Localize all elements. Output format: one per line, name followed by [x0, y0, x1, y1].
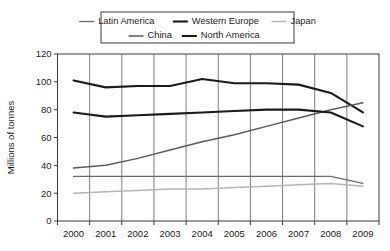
y-axis-tick-label: 40: [41, 160, 52, 171]
x-axis-tick-label: 2008: [320, 228, 341, 239]
y-axis-tick-label: 60: [41, 132, 52, 143]
x-axis-tick-label: 2002: [127, 228, 148, 239]
x-axis-tick-label: 2003: [159, 228, 180, 239]
chart-canvas: 020406080100120Millions of tonnes2000200…: [0, 0, 390, 251]
x-axis-tick-label: 2004: [192, 228, 213, 239]
y-axis-title: Millions of tonnes: [5, 101, 16, 175]
x-axis-tick-label: 2000: [63, 228, 84, 239]
y-axis-tick-label: 80: [41, 104, 52, 115]
line-chart: 020406080100120Millions of tonnes2000200…: [0, 0, 390, 251]
legend-label-north-america: North America: [201, 30, 261, 40]
x-axis-tick-label: 2009: [352, 228, 373, 239]
x-axis-tick-label: 2006: [256, 228, 277, 239]
legend-label-western-europe: Western Europe: [192, 16, 259, 26]
legend-label-japan: Japan: [291, 16, 316, 26]
x-axis-tick-label: 2001: [95, 228, 116, 239]
y-axis-tick-label: 120: [36, 48, 52, 59]
y-axis-tick-label: 20: [41, 188, 52, 199]
x-axis-tick-label: 2007: [288, 228, 309, 239]
legend-label-china: China: [148, 30, 173, 40]
y-axis-tick-label: 0: [46, 215, 51, 226]
x-axis-tick-label: 2005: [224, 228, 245, 239]
legend-label-latin-america: Latin America: [98, 16, 155, 26]
y-axis-tick-label: 100: [36, 76, 52, 87]
